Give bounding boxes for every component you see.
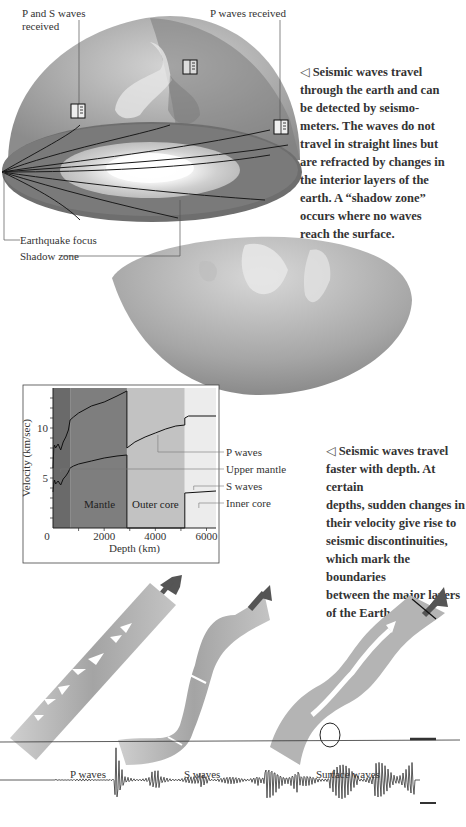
rotation-arrow-icon: [320, 723, 340, 747]
legend-s-waves: S waves: [226, 480, 262, 493]
x-axis-label: Depth (km): [109, 542, 160, 555]
caption-marker-icon: ◁: [326, 444, 336, 458]
y-tick-label: 5: [43, 472, 49, 484]
caption-line: through the earth and can: [300, 83, 439, 97]
seismometer-icon: [274, 120, 288, 134]
caption-line: their velocity give rise to: [326, 516, 456, 530]
wave-types-illustration: [0, 575, 462, 827]
caption-seismic-waves-detection: ◁Seismic waves travel through the earth …: [300, 63, 460, 243]
seismometer-icon: [183, 60, 197, 74]
caption-line: earth. A “shadow zone”: [300, 191, 426, 205]
caption-line: depths, sudden changes in: [326, 498, 465, 512]
caption-line: faster with depth. At certain: [326, 462, 436, 494]
region-inner-core: [185, 388, 216, 528]
region-label-outer-core: Outer core: [132, 498, 179, 510]
caption-line: Seismic waves travel: [313, 65, 423, 79]
seismometer-icon: [71, 104, 85, 118]
y-axis-label: Velocity (km/sec): [20, 419, 33, 497]
label-line: P and S waves: [22, 7, 85, 20]
y-tick-label: 10: [37, 422, 49, 434]
legend-inner-core: Inner core: [226, 497, 271, 510]
caption-line: the interior layers of the: [300, 173, 429, 187]
lower-hemisphere: [112, 237, 412, 395]
label-p-waves: P waves: [70, 768, 106, 781]
p-wave-diagram: [10, 575, 182, 760]
label-line: received: [22, 20, 85, 33]
caption-line: occurs where no waves: [300, 209, 422, 223]
legend-p-waves: P waves: [226, 446, 262, 459]
caption-line: Seismic waves travel: [339, 444, 449, 458]
caption-line: be detected by seismo-: [300, 101, 419, 115]
x-tick-label: 2000: [93, 530, 116, 542]
region-label-mantle: Mantle: [84, 498, 115, 510]
label-earthquake-focus: Earthquake focus: [20, 234, 97, 247]
caption-line: meters. The waves do not: [300, 119, 435, 133]
label-s-waves: S waves: [184, 768, 220, 781]
origin-tick-label: 0: [44, 530, 50, 542]
x-tick-label: 4000: [144, 530, 167, 542]
label-shadow-zone: Shadow zone: [20, 250, 79, 263]
caption-line: seismic discontinuities,: [326, 534, 448, 548]
x-tick-label: 6000: [196, 530, 219, 542]
caption-line: travel in straight lines but: [300, 137, 438, 151]
caption-line: are refracted by changes in: [300, 155, 445, 169]
label-p-waves-received: P waves received: [210, 7, 286, 20]
label-p-and-s-waves-received: P and S waves received: [22, 7, 85, 33]
label-surface-waves: Surface waves: [316, 768, 380, 781]
ground-line: [0, 740, 460, 742]
caption-line: reach the surface.: [300, 227, 395, 241]
caption-marker-icon: ◁: [300, 65, 310, 79]
region-upper-mantle: [53, 388, 70, 528]
legend-upper-mantle: Upper mantle: [226, 463, 286, 476]
